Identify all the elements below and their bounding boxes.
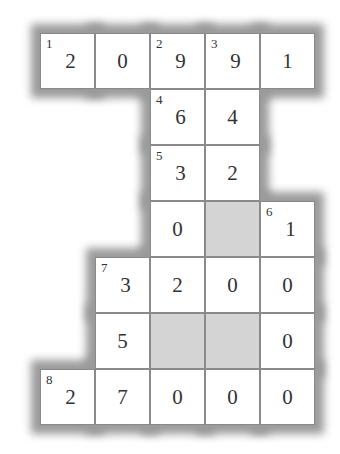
cell-value: 5 (96, 329, 149, 354)
grid-cell[interactable]: 1 (260, 33, 315, 89)
cell-value: 4 (206, 105, 259, 130)
cell-value: 2 (41, 49, 94, 74)
cell-value: 6 (151, 105, 204, 130)
grid-cell[interactable]: 53 (150, 145, 205, 201)
grid-cell[interactable]: 2 (205, 145, 260, 201)
cross-number-board: 120293914645320617320050827000 (0, 0, 340, 454)
grid-cell[interactable]: 61 (260, 201, 315, 257)
cell-value: 0 (261, 329, 314, 354)
cell-value: 0 (206, 273, 259, 298)
grid-cell[interactable]: 39 (205, 33, 260, 89)
cell-value: 0 (151, 217, 204, 242)
grid-cell[interactable]: 12 (40, 33, 95, 89)
cell-value: 9 (206, 49, 259, 74)
cell-value: 1 (261, 49, 314, 74)
grid-cell[interactable]: 0 (205, 369, 260, 425)
grid-cell[interactable]: 0 (260, 257, 315, 313)
cell-value: 2 (41, 385, 94, 410)
grid-cell[interactable]: 0 (260, 369, 315, 425)
cell-value: 1 (261, 217, 314, 242)
grid-cell[interactable]: 46 (150, 89, 205, 145)
grid-cell[interactable]: 0 (150, 201, 205, 257)
shaded-cell (205, 201, 260, 257)
grid-cell[interactable]: 0 (150, 369, 205, 425)
cell-value: 2 (206, 161, 259, 186)
grid-cell[interactable]: 29 (150, 33, 205, 89)
cell-value: 0 (261, 273, 314, 298)
grid-cell[interactable]: 0 (205, 257, 260, 313)
grid-cell[interactable]: 73 (95, 257, 150, 313)
grid-cell[interactable]: 5 (95, 313, 150, 369)
grid-cell[interactable]: 0 (95, 33, 150, 89)
cell-value: 0 (261, 385, 314, 410)
grid-cell[interactable]: 7 (95, 369, 150, 425)
shaded-cell (205, 313, 260, 369)
cell-value: 0 (96, 49, 149, 74)
cell-value: 0 (206, 385, 259, 410)
cell-value: 9 (151, 49, 204, 74)
cell-value: 3 (96, 273, 149, 298)
grid-cell[interactable]: 0 (260, 313, 315, 369)
shaded-cell (150, 313, 205, 369)
grid-cell[interactable]: 4 (205, 89, 260, 145)
cell-value: 7 (96, 385, 149, 410)
grid-cell[interactable]: 82 (40, 369, 95, 425)
grid-cell[interactable]: 2 (150, 257, 205, 313)
cell-value: 0 (151, 385, 204, 410)
cell-value: 2 (151, 273, 204, 298)
cell-value: 3 (151, 161, 204, 186)
